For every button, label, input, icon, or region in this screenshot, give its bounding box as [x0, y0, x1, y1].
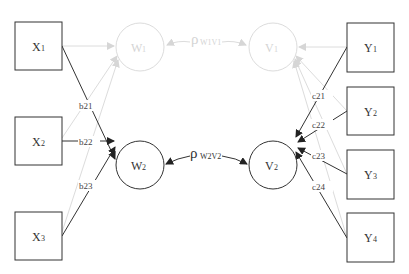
svg-text:X: X: [32, 230, 41, 244]
label-b21: b21: [79, 101, 93, 111]
edge-rho-w2v2-left: [166, 156, 190, 164]
node-y4: Y 4: [347, 213, 394, 262]
svg-text:Y: Y: [364, 105, 373, 119]
svg-text:W1V1: W1V1: [200, 38, 221, 47]
svg-text:1: 1: [274, 45, 278, 54]
path-diagram: b21 b22 b23 c21 c22 c23 c24 ρ W1V1 ρ W2V…: [0, 0, 409, 274]
node-x2: X 2: [15, 117, 62, 165]
svg-text:V: V: [265, 159, 274, 173]
label-c24: c24: [312, 182, 325, 192]
svg-text:ρ: ρ: [191, 31, 199, 47]
svg-text:Y: Y: [364, 231, 373, 245]
label-c22: c22: [312, 120, 325, 130]
svg-text:W2V2: W2V2: [200, 152, 221, 161]
svg-text:ρ: ρ: [190, 145, 198, 161]
svg-text:3: 3: [373, 172, 377, 181]
node-y2: Y 2: [347, 87, 394, 135]
edge-y2-v1: [296, 56, 347, 111]
edge-label-backgrounds: [78, 90, 333, 192]
label-c23: c23: [312, 151, 325, 161]
svg-text:2: 2: [373, 109, 377, 118]
edge-x3-w2: [62, 147, 115, 236]
label-b23: b23: [79, 181, 93, 191]
svg-text:1: 1: [41, 44, 45, 53]
svg-text:X: X: [32, 40, 41, 54]
svg-text:1: 1: [142, 45, 146, 54]
faded-edges: [62, 41, 347, 238]
edge-rho-w2v2-right: [222, 156, 247, 164]
svg-text:3: 3: [41, 234, 45, 243]
node-w2: W 2: [116, 141, 164, 189]
node-x3: X 3: [15, 212, 62, 260]
svg-text:1: 1: [373, 45, 377, 54]
edge-rho-w1v1-left: [167, 41, 190, 45]
svg-text:2: 2: [41, 139, 45, 148]
node-x1: X 1: [15, 22, 62, 70]
rho-w1v1-label: ρ W1V1: [191, 31, 221, 47]
svg-text:4: 4: [373, 235, 377, 244]
svg-text:V: V: [265, 41, 274, 55]
svg-text:X: X: [32, 135, 41, 149]
node-v1: V 1: [249, 23, 297, 71]
node-y3: Y 3: [347, 150, 394, 199]
edge-y4-v2: [296, 152, 347, 238]
edge-x2-w1: [62, 56, 117, 138]
node-w1: W 1: [116, 23, 164, 71]
label-c21: c21: [312, 91, 325, 101]
svg-text:Y: Y: [364, 41, 373, 55]
svg-text:2: 2: [142, 163, 146, 172]
label-b22: b22: [79, 137, 93, 147]
svg-text:2: 2: [274, 163, 278, 172]
rho-w2v2-label: ρ W2V2: [190, 145, 221, 161]
node-y1: Y 1: [347, 23, 394, 72]
node-v2: V 2: [249, 141, 297, 189]
edge-rho-w1v1-right: [222, 41, 246, 45]
edge-y4-v1: [294, 61, 347, 238]
svg-text:Y: Y: [364, 168, 373, 182]
